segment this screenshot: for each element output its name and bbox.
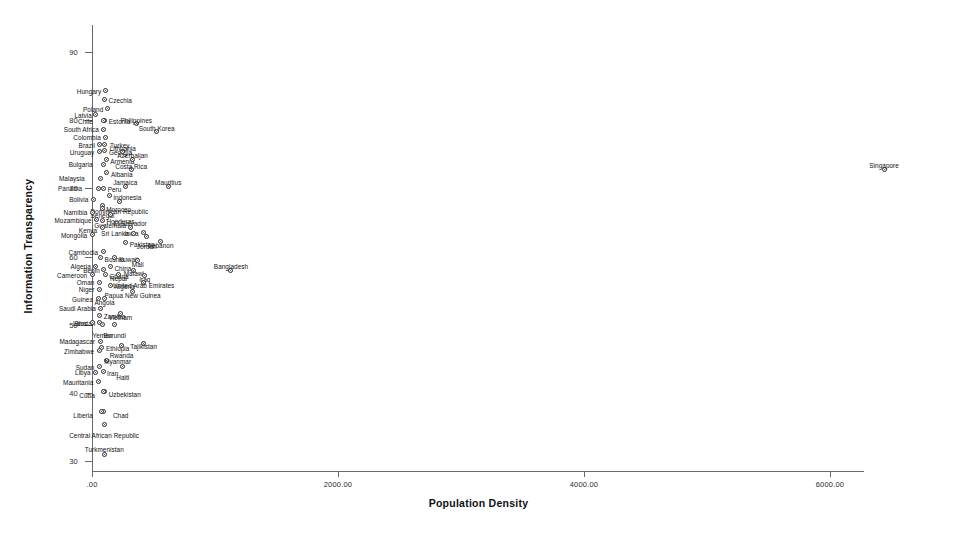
- scatter-point-label: Uruguay: [70, 148, 95, 155]
- scatter-point[interactable]: [97, 149, 102, 154]
- scatter-point[interactable]: [101, 249, 106, 254]
- scatter-point[interactable]: [100, 322, 105, 327]
- scatter-point-label: Mozambique: [54, 216, 91, 223]
- scatter-point[interactable]: [101, 369, 106, 374]
- scatter-point[interactable]: [90, 210, 95, 215]
- scatter-point[interactable]: [107, 193, 112, 198]
- scatter-point-label: Mauritius: [155, 179, 181, 186]
- scatter-point-label: Mauritania: [63, 378, 93, 385]
- scatter-point-label: Albania: [111, 170, 133, 177]
- scatter-point[interactable]: [96, 379, 101, 384]
- scatter-point[interactable]: [119, 343, 124, 348]
- scatter-point-label: Chad: [113, 412, 128, 419]
- scatter-point[interactable]: [97, 280, 102, 285]
- y-tick-mark: [85, 188, 92, 189]
- scatter-point-label: Turkmenistan: [85, 446, 124, 453]
- scatter-point[interactable]: [101, 267, 106, 272]
- scatter-point[interactable]: [97, 313, 102, 318]
- scatter-point[interactable]: [108, 283, 113, 288]
- scatter-point[interactable]: [91, 197, 96, 202]
- scatter-point-label: Azerbaijan: [117, 152, 148, 159]
- y-axis-title: Information Transparency: [22, 136, 34, 356]
- scatter-point-label: Central African Republic: [69, 432, 139, 439]
- scatter-point[interactable]: [117, 199, 122, 204]
- scatter-point[interactable]: [96, 186, 101, 191]
- scatter-point[interactable]: [100, 218, 105, 223]
- scatter-point[interactable]: [112, 322, 117, 327]
- scatter-point-label: Cambodia: [69, 248, 99, 255]
- scatter-point[interactable]: [104, 170, 109, 175]
- scatter-point-label: Cameroon: [57, 271, 87, 278]
- scatter-point-label: Singapore: [869, 162, 899, 169]
- scatter-point-label: Laos: [73, 319, 87, 326]
- scatter-point-label: Liberia: [73, 412, 93, 419]
- scatter-point-label: Myanmar: [104, 357, 131, 364]
- scatter-point[interactable]: [123, 240, 128, 245]
- scatter-point-label: Cuba: [79, 392, 94, 399]
- x-tick-mark: [830, 471, 831, 477]
- scatter-point-label: Mali: [132, 261, 144, 268]
- scatter-point-label: Jamaica: [113, 179, 137, 186]
- scatter-point[interactable]: [90, 320, 95, 325]
- scatter-point-label: Saudi Arabia: [59, 305, 96, 312]
- x-axis-line: [92, 471, 864, 472]
- x-tick-label: 2000.00: [306, 480, 370, 489]
- scatter-point-label: Burundi: [104, 332, 126, 339]
- scatter-point[interactable]: [101, 162, 106, 167]
- scatter-point[interactable]: [103, 135, 108, 140]
- scatter-point-label: Nepal: [110, 275, 127, 282]
- scatter-point[interactable]: [98, 255, 103, 260]
- scatter-point[interactable]: [93, 112, 98, 117]
- scatter-point[interactable]: [90, 232, 95, 237]
- scatter-point[interactable]: [102, 148, 107, 153]
- scatter-point-label: El Salvador: [114, 220, 147, 227]
- scatter-point[interactable]: [97, 287, 102, 292]
- y-tick-mark: [85, 52, 92, 53]
- x-tick-label: 4000.00: [552, 480, 616, 489]
- scatter-point-label: Colombia: [73, 134, 100, 141]
- scatter-point[interactable]: [101, 186, 106, 191]
- scatter-point-label: Panama: [58, 185, 82, 192]
- scatter-point[interactable]: [101, 127, 106, 132]
- x-axis-title: Population Density: [0, 497, 957, 509]
- scatter-point[interactable]: [102, 422, 107, 427]
- scatter-point-label: Zimbabwe: [64, 347, 94, 354]
- scatter-point-label: Chile: [78, 117, 93, 124]
- scatter-point[interactable]: [98, 339, 103, 344]
- x-tick-label: .00: [60, 480, 124, 489]
- scatter-point-label: Lebanon: [148, 242, 173, 249]
- scatter-point-label: Sri Lanka: [101, 230, 128, 237]
- y-tick-label: 30: [52, 457, 78, 466]
- scatter-point[interactable]: [100, 206, 105, 211]
- scatter-point-label: Czechia: [109, 96, 132, 103]
- scatter-point-label: South Korea: [139, 125, 175, 132]
- scatter-point[interactable]: [98, 176, 103, 181]
- scatter-point-label: Angola: [94, 299, 114, 306]
- scatter-point-label: Philippines: [121, 117, 152, 124]
- x-tick-mark: [92, 471, 93, 477]
- scatter-point-label: Bolivia: [69, 196, 88, 203]
- scatter-point[interactable]: [102, 97, 107, 102]
- scatter-point-label: Uzbekistan: [109, 391, 141, 398]
- scatter-point-label: Peru: [108, 186, 122, 193]
- scatter-point[interactable]: [120, 364, 125, 369]
- scatter-point[interactable]: [97, 142, 102, 147]
- scatter-point[interactable]: [93, 370, 98, 375]
- scatter-point[interactable]: [98, 306, 103, 311]
- scatter-point[interactable]: [144, 234, 149, 239]
- scatter-point-label: South Africa: [64, 126, 99, 133]
- scatter-point[interactable]: [105, 106, 110, 111]
- scatter-point[interactable]: [97, 348, 102, 353]
- scatter-point[interactable]: [108, 264, 113, 269]
- scatter-point-label: Bulgaria: [69, 161, 93, 168]
- y-tick-mark: [85, 257, 92, 258]
- scatter-point[interactable]: [90, 272, 95, 277]
- scatter-point-label: Costa Rica: [115, 163, 147, 170]
- scatter-point-label: Bangladesh: [214, 263, 248, 270]
- scatter-point-label: Iran: [107, 369, 118, 376]
- scatter-point-label: Malaysia: [59, 175, 85, 182]
- scatter-plot-figure: 30405060708090 .002000.004000.006000.00 …: [0, 0, 957, 537]
- scatter-point[interactable]: [102, 142, 107, 147]
- scatter-point[interactable]: [103, 88, 108, 93]
- scatter-point[interactable]: [103, 272, 108, 277]
